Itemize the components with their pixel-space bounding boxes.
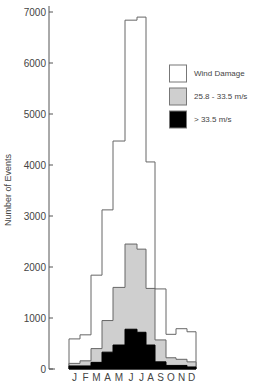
x-tick-label: N: [178, 372, 185, 383]
legend-swatch: [170, 111, 187, 128]
y-tick-label: 6000: [24, 58, 47, 69]
x-axis-labels: JFMAMJJASOND: [72, 372, 195, 383]
x-tick-label: S: [157, 372, 164, 383]
y-axis: 01000200030004000500060007000: [24, 6, 55, 375]
x-tick-label: O: [167, 372, 175, 383]
x-tick-label: A: [104, 372, 111, 383]
x-tick-label: J: [129, 372, 134, 383]
y-tick-label: 3000: [24, 211, 47, 222]
legend-label: 25.8 - 33.5 m/s: [194, 92, 247, 101]
legend-label: > 33.5 m/s: [194, 115, 232, 124]
x-tick-label: D: [188, 372, 195, 383]
monthly-events-chart: 01000200030004000500060007000 JFMAMJJASO…: [0, 0, 261, 388]
x-tick-label: A: [147, 372, 154, 383]
y-tick-label: 5000: [24, 109, 47, 120]
x-tick-label: F: [82, 372, 88, 383]
legend-swatch: [170, 65, 187, 82]
y-tick-label: 0: [40, 364, 46, 375]
y-tick-label: 4000: [24, 160, 47, 171]
y-tick-label: 1000: [24, 313, 47, 324]
y-tick-label: 7000: [24, 7, 47, 18]
y-tick-label: 2000: [24, 262, 47, 273]
y-axis-label: Number of Events: [3, 153, 13, 226]
x-tick-label: J: [139, 372, 144, 383]
x-tick-label: J: [72, 372, 77, 383]
legend-swatch: [170, 88, 187, 105]
x-tick-label: M: [92, 372, 100, 383]
x-tick-label: M: [115, 372, 123, 383]
legend-label: Wind Damage: [194, 69, 245, 78]
legend: Wind Damage25.8 - 33.5 m/s> 33.5 m/s: [170, 65, 248, 128]
